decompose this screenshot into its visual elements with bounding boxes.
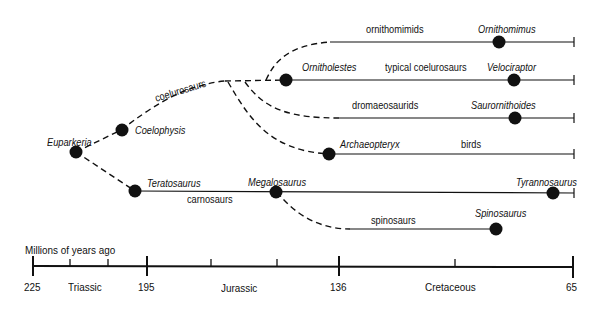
branch-to-birds [228,82,328,154]
label-carnosaurs: carnosaurs [187,193,233,205]
label-dromaeosaurids: dromaeosaurids [352,99,418,111]
node-spinosaurus [490,223,503,236]
branch-to-spinosaurs [277,192,350,229]
tick-65: 65 [566,281,577,293]
period-cretaceous: Cretaceous [425,281,476,293]
tick-225: 225 [24,281,41,293]
label-typical-coelurosaurs: typical coelurosaurs [385,61,467,73]
branch-euparkeria-teratosaurus [76,152,135,191]
label-euparkeria: Euparkeria [47,136,92,148]
label-ornithomimids: ornithomimids [366,23,424,35]
phylogeny-drawing [0,0,598,310]
tick-195: 195 [138,281,155,293]
node-velociraptor [508,74,521,87]
label-archaeopteryx: Archaeopteryx [340,138,400,150]
label-tyrannosaurus: Tyrannosaurus [516,176,577,188]
branch-to-dromaeosaurids [245,82,340,118]
node-saurornithoides [509,112,522,125]
label-ornithomimus: Ornithomimus [478,23,536,35]
time-axis [33,256,573,278]
label-spinosaurus: Spinosaurus [475,207,526,219]
timeline-title: Millions of years ago [25,244,115,256]
node-coelophysis [116,124,129,137]
node-archaeopteryx [323,148,336,161]
branch-to-ornitholestes [225,80,287,81]
label-teratosaurus: Teratosaurus [147,177,201,189]
node-teratosaurus [129,185,142,198]
period-jurassic: Jurassic [221,282,257,294]
label-megalosaurus: Megalosaurus [248,176,306,188]
node-ornithomimus [493,36,506,49]
label-velociraptor: Velociraptor [487,61,536,73]
period-triassic: Triassic [68,281,102,293]
node-ornitholestes [280,74,293,87]
node-tyrannosaurus [547,187,560,200]
label-saurornithoides: Saurornithoides [471,99,536,111]
label-ornitholestes: Ornitholestes [302,61,356,73]
label-birds: birds [461,138,481,150]
tick-136: 136 [330,281,347,293]
label-coelophysis: Coelophysis [135,124,185,136]
label-spinosaurs: spinosaurs [371,214,416,226]
